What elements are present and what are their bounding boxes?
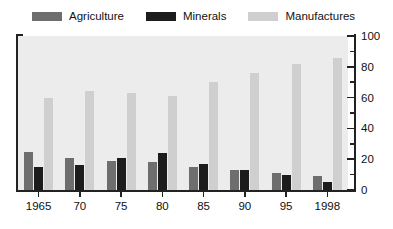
bar [158,153,167,190]
bar [240,170,249,190]
legend-item-label: Minerals [183,10,226,23]
bar-group [148,36,177,190]
legend-swatch-icon [146,12,176,21]
bar [75,165,84,190]
y-axis-left [16,34,18,192]
y-axis-minor-tick [350,51,354,53]
y-axis-tick [347,35,354,37]
bar [44,98,53,190]
legend-swatch-icon [32,12,62,21]
y-axis-minor-tick [350,81,354,83]
x-axis-label: 1965 [26,200,52,213]
bar [107,161,116,190]
bar-group [272,36,301,190]
y-axis-minor-tick [350,112,354,114]
y-axis-minor-tick [350,143,354,145]
legend-swatch-icon [248,12,278,21]
legend-item: Manufactures [248,10,355,23]
y-axis-tick [347,66,354,68]
x-axis-tick [38,192,40,197]
bar-group [65,36,94,190]
y-axis-tick [347,97,354,99]
bar [189,167,198,190]
y-axis-tick [347,189,354,191]
bar [333,58,342,190]
y-axis-label: 100 [361,30,380,42]
y-axis-right [354,34,356,192]
bar [282,175,291,190]
plot-area [18,36,348,190]
bar-group [189,36,218,190]
bar [230,170,239,190]
bar [34,167,43,190]
bar [323,182,332,190]
bar [272,173,281,190]
chart-legend: AgricultureMineralsManufactures [0,6,393,26]
x-axis-label: 75 [115,200,128,213]
x-axis-tick [327,192,329,197]
x-axis-label: 70 [73,200,86,213]
y-axis-minor-tick [350,174,354,176]
bar [209,82,218,190]
bar-chart: AgricultureMineralsManufactures 02040608… [0,0,393,229]
x-axis-label: 85 [197,200,210,213]
y-axis-label: 80 [361,61,374,73]
bar [65,158,74,190]
bar [250,73,259,190]
bar [168,96,177,190]
x-axis-tick [244,192,246,197]
bar-group [230,36,259,190]
bar [148,162,157,190]
legend-item-label: Manufactures [285,10,355,23]
bar-group [107,36,136,190]
x-axis-tick [120,192,122,197]
x-axis-label: 80 [156,200,169,213]
bar [313,176,322,190]
x-axis [16,190,356,192]
bar [117,158,126,190]
legend-item: Minerals [146,10,226,23]
x-axis-tick [79,192,81,197]
x-axis-tick [285,192,287,197]
x-axis-label: 95 [280,200,293,213]
x-axis-label: 1998 [315,200,341,213]
y-axis-label: 40 [361,122,374,134]
bar [127,93,136,190]
bar [199,164,208,190]
x-axis-tick [162,192,164,197]
bar [85,91,94,190]
bar [24,152,33,191]
bars-layer [18,36,348,190]
x-axis-tick [203,192,205,197]
y-axis-label: 20 [361,153,374,165]
bar-group [24,36,53,190]
y-axis-label: 60 [361,92,374,104]
legend-item-label: Agriculture [69,10,124,23]
bar-group [313,36,342,190]
y-axis-tick [347,158,354,160]
y-axis-label: 0 [361,184,367,196]
legend-item: Agriculture [32,10,124,23]
y-axis-tick [347,128,354,130]
x-axis-label: 90 [238,200,251,213]
bar [292,64,301,190]
